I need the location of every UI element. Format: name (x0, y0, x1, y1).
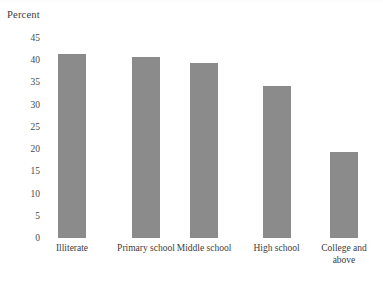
y-axis-tick-label: 35 (18, 77, 40, 87)
bar (330, 152, 358, 238)
bar-chart: Percent 051015202530354045IlliteratePrim… (0, 0, 383, 285)
x-axis-category-label: Illiterate (32, 243, 112, 255)
y-axis-tick-label: 0 (18, 233, 40, 243)
y-axis-tick-label: 40 (18, 55, 40, 65)
y-axis-tick-label: 30 (18, 100, 40, 110)
y-axis-tick-label: 25 (18, 122, 40, 132)
x-axis-category-label: College and above (304, 243, 383, 266)
y-axis-tick-label: 5 (18, 211, 40, 221)
bar (263, 86, 291, 238)
y-axis-tick-label: 20 (18, 144, 40, 154)
bar (132, 57, 160, 238)
x-axis-category-label: Middle school (164, 243, 244, 255)
bar (58, 54, 86, 238)
y-axis-tick-label: 45 (18, 33, 40, 43)
y-axis-tick-label: 15 (18, 166, 40, 176)
plot-area: 051015202530354045IlliteratePrimary scho… (0, 0, 383, 285)
bar (190, 63, 218, 238)
y-axis-tick-label: 10 (18, 189, 40, 199)
